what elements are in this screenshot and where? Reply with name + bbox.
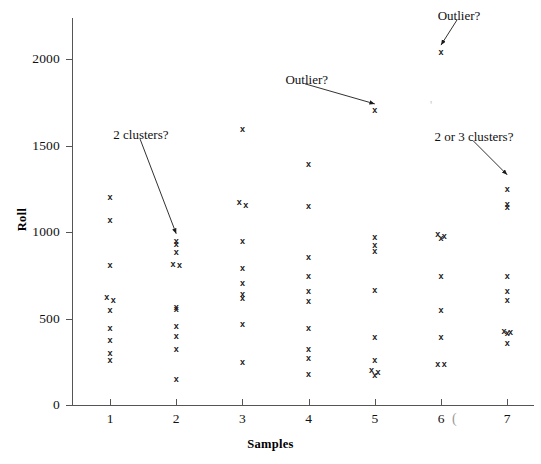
data-point: x bbox=[504, 273, 511, 280]
data-point: x bbox=[239, 359, 246, 366]
data-point: x bbox=[371, 357, 378, 364]
data-point: x bbox=[371, 334, 378, 341]
y-tick-label-text: 0 bbox=[12, 398, 60, 412]
data-point: x bbox=[173, 376, 180, 383]
data-point: x bbox=[371, 107, 378, 114]
ann-2-clusters: 2 clusters? bbox=[113, 127, 168, 142]
annotation-arrows bbox=[0, 0, 541, 464]
y-tick-label-text: 2000 bbox=[12, 52, 60, 66]
data-point: x bbox=[110, 297, 117, 304]
x-tick-mark bbox=[507, 399, 508, 406]
data-point: x bbox=[305, 273, 312, 280]
data-point: x bbox=[504, 297, 511, 304]
data-point: x bbox=[107, 262, 114, 269]
data-point: x bbox=[371, 248, 378, 255]
data-point: x bbox=[371, 287, 378, 294]
data-point: x bbox=[107, 357, 114, 364]
data-point: x bbox=[305, 325, 312, 332]
data-point: x bbox=[438, 307, 445, 314]
data-point: x bbox=[504, 204, 511, 211]
data-point: x bbox=[305, 288, 312, 295]
data-point: x bbox=[173, 249, 180, 256]
x-tick-label: 3 bbox=[227, 412, 257, 426]
y-tick-mark bbox=[66, 232, 73, 233]
stray-ink-mark: ( bbox=[452, 411, 457, 427]
data-point: x bbox=[305, 355, 312, 362]
data-point: x bbox=[242, 202, 249, 209]
annotation-arrow bbox=[140, 139, 176, 234]
data-point: x bbox=[441, 361, 448, 368]
x-tick-label: 1 bbox=[95, 412, 125, 426]
data-point: x bbox=[239, 295, 246, 302]
y-tick-label: 2000 bbox=[8, 52, 60, 66]
plot-area: 2000150010005000 1234567 Roll Samples ( … bbox=[0, 0, 541, 464]
ann-2-or-3-clusters: 2 or 3 clusters? bbox=[434, 129, 513, 144]
data-point: x bbox=[107, 194, 114, 201]
y-tick-label: 1500 bbox=[8, 139, 60, 153]
data-point: x bbox=[107, 337, 114, 344]
data-point: x bbox=[305, 254, 312, 261]
data-point: x bbox=[504, 186, 511, 193]
y-axis-line bbox=[72, 18, 73, 406]
x-tick-label: 2 bbox=[161, 412, 191, 426]
data-point: x bbox=[107, 217, 114, 224]
data-point: x bbox=[239, 321, 246, 328]
data-point: x bbox=[438, 334, 445, 341]
stray-ink-mark-upper: ' bbox=[430, 98, 432, 113]
scatter-plot-figure: 2000150010005000 1234567 Roll Samples ( … bbox=[0, 0, 541, 464]
x-tick-mark bbox=[176, 399, 177, 406]
data-point: x bbox=[107, 325, 114, 332]
x-axis-title: Samples bbox=[0, 437, 541, 452]
x-tick-label: 4 bbox=[294, 412, 324, 426]
data-point: x bbox=[438, 49, 445, 56]
data-point: x bbox=[107, 307, 114, 314]
data-point: x bbox=[305, 298, 312, 305]
x-tick-mark bbox=[309, 399, 310, 406]
ann-outlier-top: Outlier? bbox=[438, 8, 481, 23]
x-axis-line bbox=[72, 405, 534, 406]
data-point: x bbox=[305, 161, 312, 168]
y-tick-mark bbox=[66, 405, 73, 406]
data-point: x bbox=[239, 238, 246, 245]
data-point: x bbox=[173, 333, 180, 340]
data-point: x bbox=[173, 346, 180, 353]
data-point: x bbox=[173, 306, 180, 313]
data-point: x bbox=[239, 265, 246, 272]
data-point: x bbox=[173, 323, 180, 330]
y-tick-label: 0 bbox=[8, 398, 60, 412]
y-axis-title: Roll bbox=[15, 190, 30, 250]
data-point: x bbox=[504, 330, 511, 337]
data-point: x bbox=[305, 203, 312, 210]
data-point: x bbox=[239, 280, 246, 287]
x-tick-label: 5 bbox=[360, 412, 390, 426]
y-tick-label: 500 bbox=[8, 312, 60, 326]
data-point: x bbox=[438, 235, 445, 242]
y-tick-mark bbox=[66, 59, 73, 60]
data-point: x bbox=[438, 273, 445, 280]
annotation-arrow bbox=[441, 20, 457, 45]
data-point: x bbox=[371, 372, 378, 379]
annotation-arrow bbox=[473, 141, 507, 175]
data-point: x bbox=[305, 371, 312, 378]
x-tick-mark bbox=[441, 399, 442, 406]
x-tick-label: 7 bbox=[492, 412, 522, 426]
ann-outlier-middle: Outlier? bbox=[285, 72, 328, 87]
y-tick-label-text: 500 bbox=[12, 312, 60, 326]
data-point: x bbox=[239, 126, 246, 133]
y-tick-mark bbox=[66, 146, 73, 147]
annotation-arrow bbox=[305, 84, 375, 104]
data-point: x bbox=[176, 262, 183, 269]
x-tick-mark bbox=[242, 399, 243, 406]
y-tick-mark bbox=[66, 319, 73, 320]
y-tick-label-text: 1500 bbox=[12, 139, 60, 153]
x-tick-mark bbox=[375, 399, 376, 406]
x-tick-mark bbox=[110, 399, 111, 406]
data-point: x bbox=[504, 340, 511, 347]
